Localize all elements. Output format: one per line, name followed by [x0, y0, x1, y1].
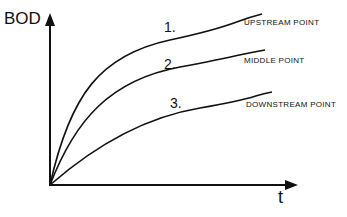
curve-middle — [50, 50, 265, 185]
curve-1-number: 1. — [164, 19, 176, 35]
x-axis-arrow-icon — [285, 180, 298, 190]
bod-diagram: BOD t 1. 2. 3. UPSTREAM POINT MIDDLE POI… — [0, 0, 347, 217]
curve-3-number: 3. — [170, 95, 182, 111]
x-axis-label: t — [278, 187, 283, 208]
curve-2-label: MIDDLE POINT — [244, 56, 305, 65]
y-axis-label: BOD — [4, 9, 41, 29]
curve-2-number: 2. — [164, 56, 176, 72]
curve-downstream — [50, 92, 272, 185]
curve-1-label: UPSTREAM POINT — [244, 18, 319, 27]
curve-3-label: DOWNSTREAM POINT — [246, 100, 336, 109]
y-axis-arrow-icon — [45, 13, 55, 26]
